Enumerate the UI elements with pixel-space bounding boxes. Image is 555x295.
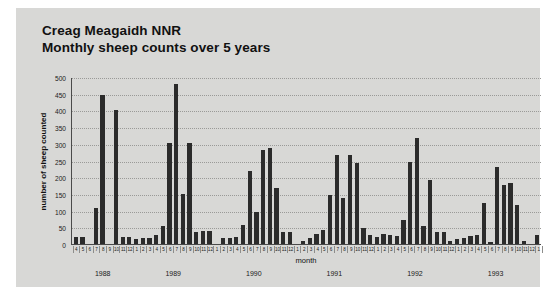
x-tick-label: 12 bbox=[208, 246, 215, 253]
x-tick-label: 2 bbox=[382, 246, 389, 253]
x-tick-label: 10 bbox=[435, 246, 442, 253]
y-tick-label: 400 bbox=[55, 108, 66, 115]
x-tick-label: 8 bbox=[181, 246, 188, 253]
chart-title-line2: Monthly sheep counts over 5 years bbox=[42, 39, 270, 56]
x-tick-label: 6 bbox=[248, 246, 255, 253]
x-tick-label: 3 bbox=[228, 246, 235, 253]
x-tick-label: 2 bbox=[141, 246, 148, 253]
x-tick-label: 12 bbox=[368, 246, 375, 253]
x-tick-label: 6 bbox=[167, 246, 174, 253]
x-tick-label: 1 bbox=[375, 246, 382, 253]
year-label: 1991 bbox=[294, 270, 375, 277]
x-tick-label: 5 bbox=[322, 246, 329, 253]
year-group-labels: 198819891990199119921993 bbox=[71, 270, 543, 277]
y-tick-label: 250 bbox=[55, 158, 66, 165]
x-tick-label: 11 bbox=[201, 246, 208, 253]
x-tick-label: 8 bbox=[261, 246, 268, 253]
x-tick-label: 5 bbox=[241, 246, 248, 253]
x-tick-label: 11 bbox=[281, 246, 288, 253]
y-tick-label: 50 bbox=[59, 225, 66, 232]
year-label: 1993 bbox=[455, 270, 536, 277]
x-tick-label: 1 bbox=[214, 246, 221, 253]
x-tick-label: 9 bbox=[107, 246, 114, 253]
year-label: 1989 bbox=[133, 270, 214, 277]
year-label: 1992 bbox=[375, 270, 456, 277]
x-tick-label: 12 bbox=[529, 246, 536, 253]
chart-figure: Creag Meagaidh NNR Monthly sheep counts … bbox=[16, 8, 540, 287]
x-tick-label: 8 bbox=[422, 246, 429, 253]
x-tick-label: 11 bbox=[120, 246, 127, 253]
x-tick-label: 2 bbox=[221, 246, 228, 253]
y-tick-label: 450 bbox=[55, 91, 66, 98]
axis-frame bbox=[71, 78, 541, 245]
x-tick-label: 6 bbox=[409, 246, 416, 253]
x-tick-label: 6 bbox=[489, 246, 496, 253]
x-tick-label: 7 bbox=[94, 246, 101, 253]
x-tick-label: 10 bbox=[194, 246, 201, 253]
x-tick-label: 3 bbox=[389, 246, 396, 253]
y-tick-label: 300 bbox=[55, 141, 66, 148]
x-tick-label: 12 bbox=[127, 246, 134, 253]
y-tick-label: 350 bbox=[55, 125, 66, 132]
x-tick-label: 8 bbox=[342, 246, 349, 253]
x-tick-label: 5 bbox=[402, 246, 409, 253]
x-tick-label: 12 bbox=[288, 246, 295, 253]
x-tick-label: 4 bbox=[476, 246, 483, 253]
x-axis-label: month bbox=[71, 256, 541, 265]
x-tick-label: 3 bbox=[469, 246, 476, 253]
x-tick-label: 2 bbox=[301, 246, 308, 253]
x-axis-ticks: 4567891011121234567891011121234567891011… bbox=[71, 246, 543, 253]
x-tick-label: 9 bbox=[268, 246, 275, 253]
x-tick-label: 10 bbox=[114, 246, 121, 253]
x-tick-label: 10 bbox=[275, 246, 282, 253]
x-tick-label: 10 bbox=[355, 246, 362, 253]
x-tick-label: 12 bbox=[449, 246, 456, 253]
x-tick-label: 4 bbox=[234, 246, 241, 253]
x-tick-label: 5 bbox=[161, 246, 168, 253]
x-tick-label: 10 bbox=[516, 246, 523, 253]
x-tick-label: 1 bbox=[134, 246, 141, 253]
x-tick-label: 8 bbox=[100, 246, 107, 253]
x-tick-label: 7 bbox=[415, 246, 422, 253]
x-tick-label: 7 bbox=[254, 246, 261, 253]
x-tick-label: 7 bbox=[496, 246, 503, 253]
x-tick-label: 9 bbox=[509, 246, 516, 253]
plot-area: 050100150200250300350400450500 bbox=[71, 78, 541, 245]
x-tick-label: 9 bbox=[429, 246, 436, 253]
x-tick-label: 8 bbox=[503, 246, 510, 253]
y-tick-label: 150 bbox=[55, 191, 66, 198]
x-tick-label: 5 bbox=[80, 246, 87, 253]
x-tick-label: 1 bbox=[456, 246, 463, 253]
chart-title-line1: Creag Meagaidh NNR bbox=[42, 22, 270, 39]
y-tick-label: 200 bbox=[55, 175, 66, 182]
x-tick-label: 11 bbox=[442, 246, 449, 253]
x-tick-label: 11 bbox=[362, 246, 369, 253]
x-tick-label: 4 bbox=[154, 246, 161, 253]
x-tick-label: 4 bbox=[73, 246, 81, 253]
x-tick-label: 3 bbox=[147, 246, 154, 253]
year-label: 1990 bbox=[214, 270, 295, 277]
x-tick-label: 1 bbox=[536, 246, 543, 253]
y-axis-label: number of sheep counted bbox=[38, 78, 50, 245]
y-tick-label: 0 bbox=[62, 242, 66, 249]
year-label bbox=[536, 270, 543, 277]
y-tick-label: 100 bbox=[55, 208, 66, 215]
x-tick-label: 9 bbox=[348, 246, 355, 253]
x-tick-label: 4 bbox=[315, 246, 322, 253]
x-tick-label: 9 bbox=[187, 246, 194, 253]
x-tick-label: 6 bbox=[328, 246, 335, 253]
x-tick-label: 7 bbox=[335, 246, 342, 253]
x-tick-label: 4 bbox=[395, 246, 402, 253]
x-tick-label: 11 bbox=[523, 246, 530, 253]
x-tick-label: 1 bbox=[295, 246, 302, 253]
x-tick-label: 2 bbox=[462, 246, 469, 253]
year-label: 1988 bbox=[73, 270, 133, 277]
y-tick-label: 500 bbox=[55, 75, 66, 82]
chart-title: Creag Meagaidh NNR Monthly sheep counts … bbox=[42, 22, 270, 56]
x-tick-label: 5 bbox=[482, 246, 489, 253]
x-tick-label: 3 bbox=[308, 246, 315, 253]
x-tick-label: 6 bbox=[87, 246, 94, 253]
x-tick-label: 7 bbox=[174, 246, 181, 253]
